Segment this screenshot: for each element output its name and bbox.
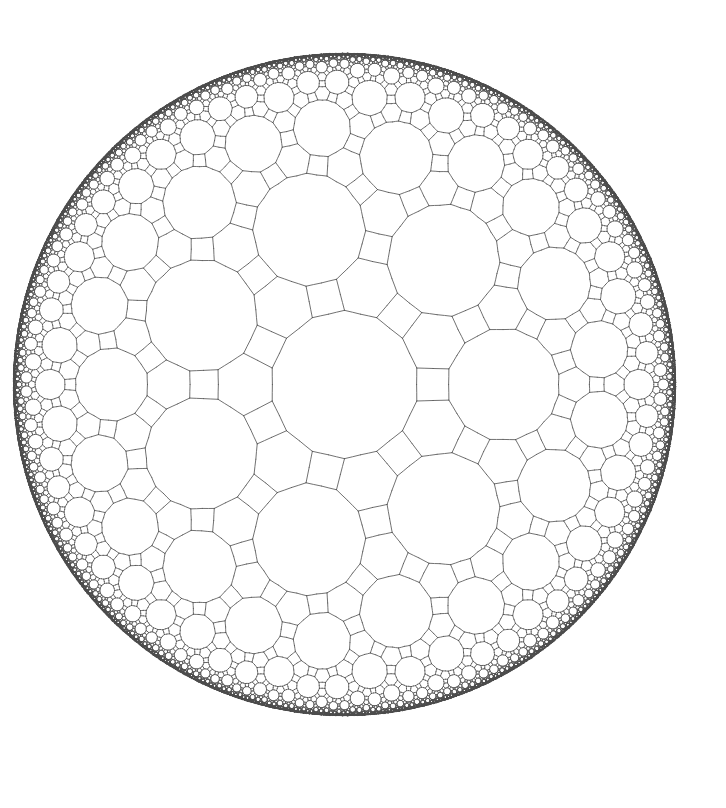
- hyperbolic-tiling-figure: [0, 0, 726, 808]
